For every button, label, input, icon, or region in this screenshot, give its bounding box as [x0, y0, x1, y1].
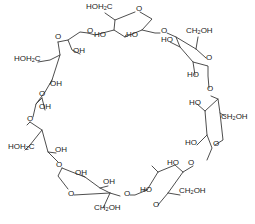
atom-label: CH2OH: [221, 113, 248, 121]
atom-label: HO: [187, 71, 199, 79]
atom-label: O: [153, 201, 159, 209]
atom-label: O: [206, 54, 212, 62]
atom-label: HO: [94, 31, 106, 39]
atom-label: O: [68, 190, 74, 198]
atom-label: OH: [55, 146, 67, 154]
atom-label: HO: [126, 31, 138, 39]
atom-label: HO: [189, 99, 201, 107]
atom-label: HOH2C: [86, 3, 113, 11]
atom-label: OH: [73, 47, 85, 55]
atom-label: HO: [167, 159, 179, 167]
atom-label: OH: [50, 80, 62, 88]
atom-label: OH: [39, 103, 51, 111]
atom-label: O: [39, 90, 45, 98]
atom-label: HOH2C: [14, 55, 41, 63]
atom-label: O: [136, 5, 142, 13]
atom-label: O: [124, 190, 130, 198]
cyclodextrin-diagram: HOH2COOHOHOOHOCH2OHOOHHOH2COHOOHOOOHHOCH…: [0, 0, 255, 224]
atom-label: O: [55, 33, 61, 41]
atom-label: O: [207, 85, 213, 93]
atom-label: CH2OH: [186, 27, 213, 35]
atom-label: HOH2C: [8, 143, 35, 151]
atom-label: O: [188, 159, 194, 167]
atom-label: CH2OH: [179, 187, 206, 195]
atom-label: OH: [103, 178, 115, 186]
atom-label: CH2OH: [94, 204, 121, 212]
atom-label: O: [27, 115, 33, 123]
atom-label: O: [213, 140, 219, 148]
atom-label: HO: [185, 139, 197, 147]
atom-label: HO: [161, 36, 173, 44]
atom-label: O: [56, 161, 62, 169]
atom-label: O: [87, 27, 93, 35]
atom-label: OH: [75, 169, 87, 177]
atom-label: O: [161, 27, 167, 35]
atom-label: HO: [140, 186, 152, 194]
